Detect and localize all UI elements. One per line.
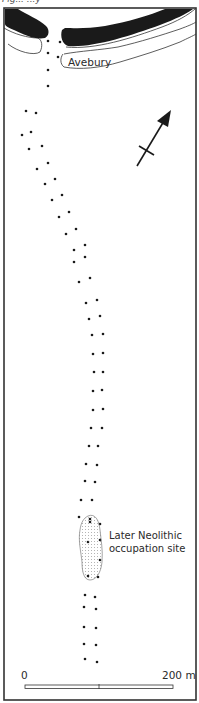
stone-marker (51, 199, 54, 202)
stone-marker (84, 480, 87, 483)
stone-marker (73, 249, 76, 252)
stone-marker (91, 334, 94, 337)
stone-marker (102, 333, 105, 336)
stone-marker (47, 85, 50, 88)
stone-marker (25, 110, 28, 113)
stone-marker (80, 499, 83, 502)
stone-marker (47, 69, 50, 72)
stone-marker (73, 261, 76, 264)
stone-marker (61, 194, 64, 197)
stone-marker (89, 277, 92, 280)
stone-marker (92, 353, 95, 356)
stone-marker (21, 134, 24, 137)
stone-marker (101, 427, 104, 430)
stone-marker (96, 661, 99, 664)
stone-marker (65, 233, 68, 236)
stone-marker (94, 481, 97, 484)
stone-marker (83, 626, 86, 629)
stone-marker (84, 658, 87, 661)
stone-marker (84, 244, 87, 247)
stone-marker (85, 463, 88, 466)
henge-bank-left (5, 9, 49, 38)
scale-label-end: 200 m (162, 669, 196, 681)
stone-marker (85, 302, 88, 305)
map-title-avebury: Avebury (68, 56, 111, 68)
stone-marker (93, 371, 96, 374)
stone-marker (28, 148, 31, 151)
stone-marker (92, 390, 95, 393)
stone-marker (95, 608, 98, 611)
stone-marker (91, 499, 94, 502)
stone-marker (97, 445, 100, 448)
stone-marker (95, 644, 98, 647)
stone-marker (99, 315, 102, 318)
site-label-line1: Later Neolithic (109, 530, 182, 542)
map-canvas (0, 0, 199, 703)
stone-marker (84, 594, 87, 597)
stone-marker (83, 643, 86, 646)
stone-marker (35, 112, 38, 115)
henge-bank-right (61, 9, 193, 46)
stone-marker (54, 178, 57, 181)
occupation-site-area (79, 515, 102, 580)
stone-marker (96, 299, 99, 302)
stone-marker (30, 131, 33, 134)
stone-marker (58, 216, 61, 219)
stone-marker (41, 145, 44, 148)
stone-marker (47, 40, 50, 43)
stone-marker (47, 162, 50, 165)
stone-marker (78, 516, 81, 519)
scale-label-start: 0 (21, 669, 28, 681)
stone-marker (68, 211, 71, 214)
stone-marker (94, 596, 97, 599)
stone-marker (44, 183, 47, 186)
stone-marker (36, 168, 39, 171)
stone-marker (59, 41, 62, 44)
stone-marker (83, 606, 86, 609)
stone-marker (75, 228, 78, 231)
stone-marker (96, 464, 99, 467)
stone-marker (88, 318, 91, 321)
stone-marker (84, 256, 87, 259)
stone-marker (101, 389, 104, 392)
stone-marker (57, 56, 60, 59)
stone-marker (92, 409, 95, 412)
stone-marker (90, 427, 93, 430)
site-label-line2: occupation site (109, 543, 185, 555)
stone-marker (102, 352, 105, 355)
north-arrow-icon (137, 110, 171, 166)
stone-marker (95, 627, 98, 630)
stone-marker (47, 52, 50, 55)
map-frame (4, 8, 196, 700)
stone-marker (78, 281, 81, 284)
scale-bar (25, 684, 173, 689)
stone-marker (102, 371, 105, 374)
stone-marker (102, 408, 105, 411)
stone-marker (88, 445, 91, 448)
